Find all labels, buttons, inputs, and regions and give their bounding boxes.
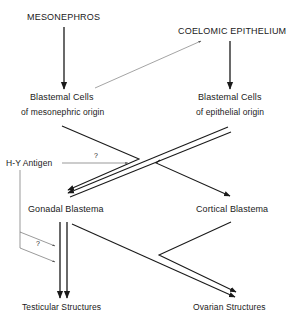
node-blastemal-epithelial-title: Blastemal Cells — [198, 93, 262, 102]
hy-question-mark: ? — [94, 152, 98, 159]
lower-question-mark: ? — [36, 240, 40, 247]
node-hy-antigen: H-Y Antigen — [6, 159, 52, 168]
arrow-mesonephric-to-coelomic — [95, 41, 201, 88]
node-testicular-structures: Testicular Structures — [22, 303, 101, 312]
path-mesonephric-to-gonadal — [62, 126, 139, 190]
arrow-gonadal-to-ovarian — [72, 224, 235, 297]
node-blastemal-mesonephric-title: Blastemal Cells — [30, 93, 94, 102]
node-gonadal-blastema: Gonadal Blastema — [28, 205, 104, 214]
path-epithelial-to-gonadal-b — [70, 132, 231, 197]
arrow-hy-lower-2 — [20, 248, 55, 262]
path-epithelial-to-gonadal-a — [68, 127, 228, 193]
node-cortical-blastema: Cortical Blastema — [196, 205, 268, 214]
node-blastemal-mesonephric-subtitle: of mesonephric origin — [21, 108, 104, 117]
path-epithelial-to-cortical — [156, 160, 230, 196]
node-blastemal-epithelial-subtitle: of epithelial origin — [196, 108, 264, 117]
gonadal-development-diagram: MESONEPHROS COELOMIC EPITHELIUM Blastema… — [0, 0, 305, 324]
node-ovarian-structures: Ovarian Structures — [193, 303, 266, 312]
node-coelomic-epithelium: COELOMIC EPITHELIUM — [178, 27, 286, 36]
node-mesonephros: MESONEPHROS — [27, 13, 100, 22]
path-cortical-to-ovarian — [159, 222, 236, 292]
